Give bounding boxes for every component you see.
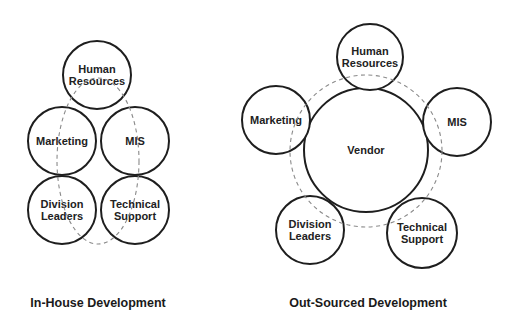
node-division-leaders: DivisionLeaders [276, 196, 344, 264]
node-vendor: Vendor [304, 88, 428, 212]
node-marketing: Marketing [28, 107, 96, 175]
division-leaders-label: Leaders [289, 230, 331, 242]
node-division-leaders: DivisionLeaders [28, 176, 96, 244]
in-house-development-diagram: HumanResourcesMarketingMISDivisionLeader… [28, 41, 169, 310]
out-sourced-development-diagram: VendorHumanResourcesMarketingMISDivision… [242, 24, 491, 310]
mis-label: MIS [125, 135, 145, 147]
vendor-label: Vendor [347, 144, 385, 156]
division-leaders-label: Leaders [41, 210, 83, 222]
mis-label: MIS [447, 116, 467, 128]
node-mis: MIS [101, 107, 169, 175]
human-resources-label: Resources [69, 75, 125, 87]
in-house-caption: In-House Development [30, 296, 166, 310]
node-technical-support: TechnicalSupport [387, 198, 457, 268]
marketing-label: Marketing [250, 114, 302, 126]
human-resources-label: Resources [342, 57, 398, 69]
division-leaders-label: Division [289, 218, 332, 230]
org-diagram-canvas: HumanResourcesMarketingMISDivisionLeader… [0, 0, 516, 321]
node-technical-support: TechnicalSupport [101, 176, 169, 244]
marketing-label: Marketing [36, 135, 88, 147]
technical-support-label: Technical [110, 198, 160, 210]
technical-support-label: Technical [397, 221, 447, 233]
technical-support-label: Support [114, 210, 156, 222]
human-resources-label: Human [351, 45, 389, 57]
node-marketing: Marketing [242, 86, 310, 154]
node-mis: MIS [423, 88, 491, 156]
node-human-resources: HumanResources [63, 41, 131, 109]
human-resources-label: Human [78, 63, 116, 75]
out-sourced-caption: Out-Sourced Development [289, 296, 447, 310]
technical-support-label: Support [401, 233, 443, 245]
